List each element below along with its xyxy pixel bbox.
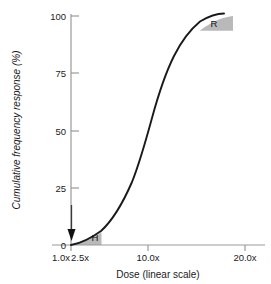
x-tick-label-2-5x: 2.5x	[71, 252, 89, 263]
threshold-arrow	[68, 205, 76, 241]
x-axis-title: Dose (linear scale)	[116, 269, 199, 280]
x-tick-label-10-0x: 10.0x	[136, 252, 159, 263]
y-tick-label-25: 25	[55, 183, 66, 194]
y-tick-label-50: 50	[55, 126, 66, 137]
chart-canvas: 100 75 50 25 0 1.0x 2.5x 10.0x 20.0x H R…	[0, 0, 271, 284]
region-label-h: H	[92, 232, 99, 243]
x-tick-label-1-0x: 1.0x	[52, 252, 70, 263]
x-tick-label-20-0x: 20.0x	[233, 252, 256, 263]
y-tick-label-100: 100	[50, 11, 66, 22]
response-curve	[71, 14, 224, 246]
y-tick-label-75: 75	[55, 68, 66, 79]
y-axis-title: Cumulative frequency response (%)	[11, 51, 22, 210]
region-label-r: R	[211, 18, 218, 29]
y-tick-label-0: 0	[61, 240, 66, 251]
chart-figure: 100 75 50 25 0 1.0x 2.5x 10.0x 20.0x H R…	[0, 0, 271, 284]
